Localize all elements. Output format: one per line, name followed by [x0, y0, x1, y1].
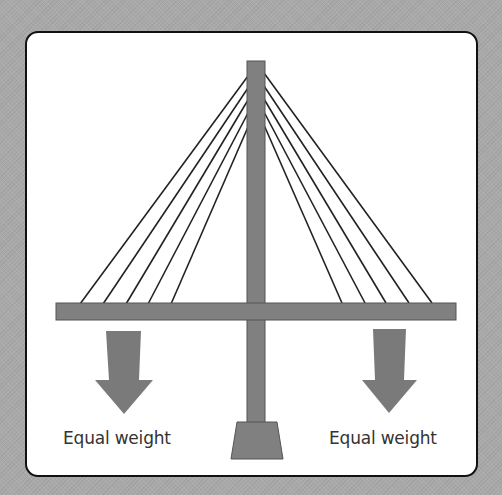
right-load-arrow — [362, 329, 417, 413]
left-load-label: Equal weight — [63, 428, 171, 448]
right-load-label: Equal weight — [329, 428, 437, 448]
left-load-arrow — [95, 331, 153, 414]
bridge-deck — [56, 303, 456, 320]
right-cables — [264, 73, 432, 303]
bridge-diagram — [0, 0, 502, 495]
tower-footing — [231, 422, 283, 459]
tower — [247, 61, 265, 423]
left-cables — [80, 76, 248, 304]
